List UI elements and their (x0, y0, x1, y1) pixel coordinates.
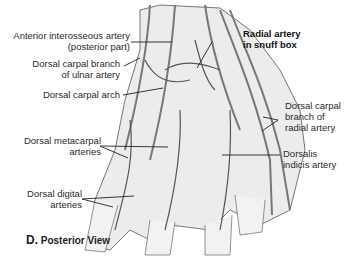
label-line: Anterior interosseous artery (13, 30, 130, 41)
label-line: Dorsal metacarpal (24, 135, 101, 146)
anatomy-figure: Anterior interosseous artery (posterior … (0, 0, 359, 256)
label-line: Dorsal digital (27, 188, 82, 199)
label-line: arteries (24, 146, 101, 157)
label-dorsalis-indicis-artery: Dorsalis indicis artery (283, 148, 336, 170)
label-line: branch of (285, 111, 341, 122)
label-dorsal-carpal-arch: Dorsal carpal arch (43, 89, 120, 100)
label-anterior-interosseous-artery: Anterior interosseous artery (posterior … (13, 30, 130, 52)
label-line: Dorsal carpal arch (43, 89, 120, 100)
label-dorsal-carpal-branch-radial: Dorsal carpal branch of radial artery (285, 100, 341, 133)
label-line: of ulnar artery (32, 69, 120, 80)
label-dorsal-digital-arteries: Dorsal digital arteries (27, 188, 82, 210)
label-line: Dorsal carpal (285, 100, 341, 111)
label-line: in snuff box (243, 39, 301, 50)
label-line: Radial artery (243, 28, 301, 39)
label-dorsal-carpal-branch-ulnar: Dorsal carpal branch of ulnar artery (32, 58, 120, 80)
caption-text: Posterior View (41, 235, 110, 246)
label-line: indicis artery (283, 159, 336, 170)
label-line: arteries (27, 199, 82, 210)
label-line: Dorsalis (283, 148, 336, 159)
caption-letter: D. (26, 233, 38, 247)
label-line: radial artery (285, 122, 341, 133)
label-dorsal-metacarpal-arteries: Dorsal metacarpal arteries (24, 135, 101, 157)
label-radial-artery-snuff-box: Radial artery in snuff box (243, 28, 301, 50)
label-line: Dorsal carpal branch (32, 58, 120, 69)
figure-caption: D. Posterior View (26, 233, 110, 247)
label-line: (posterior part) (13, 41, 130, 52)
